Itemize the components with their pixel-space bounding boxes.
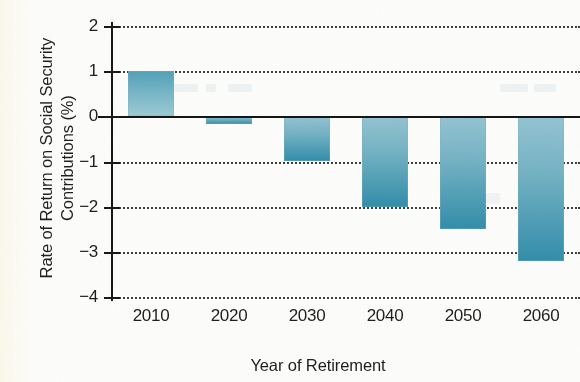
y-tick-mark — [104, 116, 120, 118]
y-tick-mark — [104, 26, 120, 28]
y-tick-label: 2 — [54, 17, 98, 34]
y-tick-label: 0 — [54, 107, 98, 124]
y-tick-mark — [104, 297, 120, 299]
gridline — [112, 26, 580, 28]
y-tick-mark — [104, 71, 120, 73]
y-tick-label: −1 — [54, 153, 98, 170]
y-tick-mark — [104, 162, 120, 164]
bar-2050 — [440, 116, 486, 229]
gridline — [112, 162, 580, 164]
bar-chart-figure: Rate of Return on Social Security Contri… — [0, 0, 580, 382]
bar-texture — [440, 116, 486, 229]
paper-tint — [0, 0, 34, 382]
y-tick-label: −2 — [54, 198, 98, 215]
y-tick-label: −3 — [54, 243, 98, 260]
x-tick-label-2050: 2050 — [424, 307, 502, 324]
gridline — [112, 207, 580, 209]
gridline — [112, 252, 580, 254]
bar-texture — [362, 116, 408, 206]
y-tick-mark — [104, 252, 120, 254]
bar-2030 — [284, 116, 330, 161]
bar-2060 — [518, 116, 564, 261]
zero-axis-line — [98, 116, 580, 118]
x-axis-title: Year of Retirement — [0, 356, 580, 375]
x-tick-label-2030: 2030 — [268, 307, 346, 324]
gridline — [112, 71, 580, 73]
gridline — [112, 297, 580, 299]
x-tick-label-2060: 2060 — [502, 307, 580, 324]
y-tick-label: 1 — [54, 62, 98, 79]
bar-2010 — [128, 71, 174, 116]
bar-texture — [518, 116, 564, 261]
y-tick-mark — [104, 207, 120, 209]
y-tick-label: −4 — [54, 288, 98, 305]
x-tick-label-2020: 2020 — [190, 307, 268, 324]
plot-area — [112, 26, 580, 297]
x-tick-label-2010: 2010 — [112, 307, 190, 324]
bar-texture — [284, 116, 330, 161]
bar-2040 — [362, 116, 408, 206]
x-tick-label-2040: 2040 — [346, 307, 424, 324]
bar-texture — [128, 71, 174, 116]
